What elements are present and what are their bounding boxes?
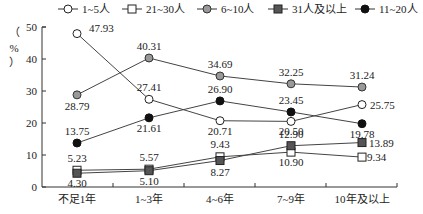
legend-marker [361, 5, 369, 13]
data-point-marker [287, 80, 295, 88]
legend-label: 21~30人 [146, 3, 185, 15]
y-axis-label-unit: % [9, 42, 18, 54]
svg-text:）: ） [9, 56, 20, 68]
data-point-marker [287, 108, 295, 116]
y-tick-label: 10 [26, 149, 38, 161]
data-label: 19.78 [350, 128, 375, 140]
data-label: 5.23 [67, 152, 87, 164]
data-label: 4.30 [67, 177, 87, 189]
data-label: 28.79 [65, 100, 90, 112]
data-point-marker [358, 83, 366, 91]
y-axis-label: （ [9, 26, 20, 38]
data-point-marker [73, 169, 81, 177]
data-label: 34.69 [208, 58, 233, 70]
legend-label: 1~5人 [82, 3, 110, 15]
data-point-marker [287, 117, 295, 125]
data-label: 26.90 [208, 83, 233, 95]
data-point-marker [216, 117, 224, 125]
x-tick-label: 7~9年 [277, 192, 305, 205]
legend-marker [128, 5, 136, 13]
data-point-marker [145, 54, 153, 62]
legend-marker [64, 5, 72, 13]
data-point-marker [358, 120, 366, 128]
data-label: 47.93 [89, 22, 114, 34]
y-tick-label: 30 [26, 85, 38, 97]
legend-marker [203, 5, 211, 13]
data-point-marker [358, 139, 366, 147]
data-point-marker [73, 30, 81, 38]
data-label: 12.90 [279, 128, 304, 140]
y-tick-label: 20 [26, 117, 38, 129]
y-tick-label: 50 [26, 21, 38, 33]
data-point-marker [287, 142, 295, 150]
data-label: 31.24 [350, 69, 375, 81]
data-point-marker [145, 167, 153, 175]
data-label: 9.43 [210, 138, 230, 150]
y-tick-label: 0 [32, 181, 38, 193]
legend-label: 11~20人 [379, 3, 418, 15]
data-label: 10.90 [279, 156, 304, 168]
x-tick-label: 不足1年 [58, 192, 97, 205]
y-tick-label: 40 [26, 53, 38, 65]
data-point-marker [73, 91, 81, 99]
legend-marker [274, 5, 282, 13]
data-label: 21.61 [137, 122, 162, 134]
data-label: 13.75 [65, 125, 90, 137]
data-label: 40.31 [137, 40, 162, 52]
data-point-marker [358, 153, 366, 161]
data-label: 8.27 [210, 166, 230, 178]
data-label: 5.10 [139, 175, 159, 187]
data-label: 20.71 [208, 125, 233, 137]
data-point-marker [73, 139, 81, 147]
data-label: 5.57 [139, 151, 159, 163]
data-point-marker [145, 114, 153, 122]
data-point-marker [216, 97, 224, 105]
data-point-marker [358, 101, 366, 109]
legend-label: 31人及以上 [292, 3, 347, 15]
line-chart: 01020304050（%）不足1年1~3年4~6年7~9年10年及以上47.9… [0, 0, 423, 214]
data-label: 9.34 [367, 151, 387, 163]
data-point-marker [216, 157, 224, 165]
data-point-marker [216, 72, 224, 80]
x-tick-label: 10年及以上 [335, 192, 390, 205]
data-label: 25.75 [370, 99, 395, 111]
data-label: 32.25 [279, 66, 304, 78]
data-point-marker [145, 95, 153, 103]
data-label: 27.41 [137, 81, 162, 93]
x-tick-label: 1~3年 [135, 192, 163, 205]
data-label: 23.45 [279, 94, 304, 106]
legend-label: 6~10人 [221, 3, 254, 15]
x-tick-label: 4~6年 [206, 192, 234, 205]
